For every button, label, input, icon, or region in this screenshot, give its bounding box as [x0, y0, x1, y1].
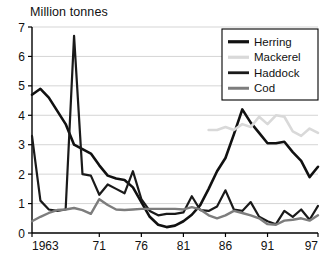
y-tick-label: 5 [18, 79, 25, 93]
x-axis-ticks: 1963717681869197 [32, 233, 318, 253]
series-line-herring [32, 89, 318, 227]
series-line-cod [32, 199, 318, 225]
chart-legend: HerringMackerelHaddockCod [222, 29, 318, 100]
x-tick-label: 76 [135, 239, 149, 253]
y-axis-ticks: 01234567 [18, 21, 32, 241]
series-line-mackerel [209, 115, 318, 136]
y-tick-label: 4 [18, 109, 25, 123]
y-tick-label: 1 [18, 197, 25, 211]
chart-container: Million tonnes 01234567 1963717681869197… [0, 0, 328, 264]
y-tick-label: 7 [18, 21, 25, 35]
x-tick-label: 91 [261, 239, 275, 253]
legend-label-haddock: Haddock [254, 67, 300, 79]
y-tick-label: 0 [18, 227, 25, 241]
legend-label-herring: Herring [254, 36, 292, 48]
y-tick-label: 2 [18, 168, 25, 182]
legend-label-cod: Cod [254, 82, 275, 94]
chart-plot-area: 01234567 1963717681869197 HerringMackere… [0, 0, 328, 264]
legend-label-mackerel: Mackerel [254, 51, 301, 63]
y-tick-label: 3 [18, 138, 25, 152]
x-tick-label: 81 [177, 239, 191, 253]
x-tick-label: 1963 [32, 239, 59, 253]
x-tick-label: 86 [219, 239, 233, 253]
x-tick-label: 97 [305, 239, 319, 253]
x-tick-label: 71 [93, 239, 107, 253]
y-tick-label: 6 [18, 50, 25, 64]
